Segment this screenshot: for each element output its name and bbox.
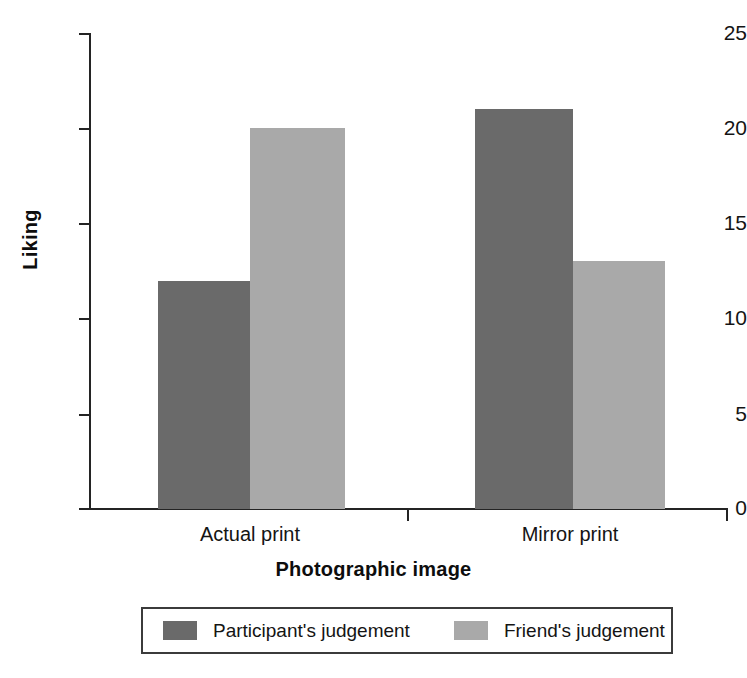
- bar-actual-print-friend: [250, 128, 345, 509]
- y-axis-title: Liking: [19, 192, 42, 288]
- y-axis-tick-15: [79, 223, 90, 225]
- legend-label-participant: Participant's judgement: [213, 621, 410, 641]
- legend-entry-friend: Friend's judgement: [454, 609, 665, 652]
- legend-swatch-participant: [163, 621, 197, 640]
- x-axis-tick-separator: [407, 510, 409, 521]
- x-axis-tick-end: [726, 510, 728, 521]
- y-axis-tick-5: [79, 414, 90, 416]
- plot-area: [90, 33, 727, 509]
- x-axis-tick-label-mirror-print: Mirror print: [470, 522, 670, 546]
- legend-swatch-friend: [454, 621, 488, 640]
- x-axis-tick-label-actual-print: Actual print: [150, 522, 350, 546]
- legend-label-friend: Friend's judgement: [504, 621, 665, 641]
- bar-actual-print-participant: [158, 281, 250, 509]
- legend-entry-participant: Participant's judgement: [163, 609, 410, 652]
- y-axis-tick-20: [79, 128, 90, 130]
- chart-legend: Participant's judgement Friend's judgeme…: [141, 607, 673, 654]
- bar-mirror-print-participant: [475, 109, 573, 509]
- bar-mirror-print-friend: [573, 261, 665, 509]
- x-axis-title: Photographic image: [0, 558, 747, 581]
- bar-chart: 25 20 15 10 5 0 Actual print Mirror prin…: [0, 0, 747, 678]
- y-axis-tick-25: [79, 33, 90, 35]
- y-axis-tick-10: [79, 318, 90, 320]
